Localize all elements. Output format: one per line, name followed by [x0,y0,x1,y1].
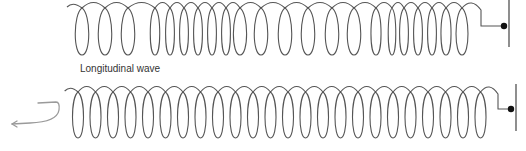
longitudinal-wave-label: Longitudinal wave [80,63,160,74]
spring-diagram-canvas [0,0,526,151]
attachment-dot-icon [501,23,507,29]
bottom-spring-uniform [65,84,516,138]
attachment-dot-icon [508,106,514,112]
longitudinal-wave-diagram: Longitudinal wave [0,0,526,151]
curved-arrow-icon [12,102,59,127]
top-spring-compressed [67,0,509,55]
